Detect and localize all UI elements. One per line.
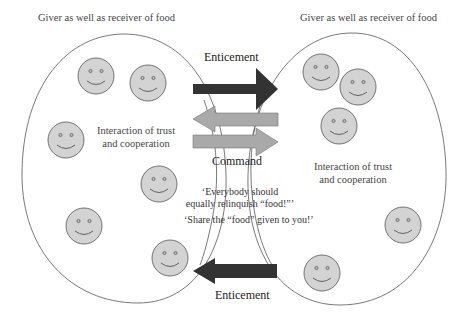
quote-block: ‘Everybody should equally relinquish “fo… [180, 186, 300, 210]
command-arrow-left [193, 106, 278, 132]
left-smiley-face-icon [130, 65, 166, 101]
right-interaction-line1: Interaction of trust [313, 161, 393, 174]
bottom-enticement-label: Enticement [215, 288, 270, 302]
quote-line1: ‘Everybody should [180, 186, 300, 198]
left-smiley-face-icon [152, 240, 188, 276]
left-smiley-face-icon [66, 208, 102, 244]
right-interaction-label: Interaction of trust and cooperation [313, 161, 393, 186]
left-interaction-line1: Interaction of trust [96, 125, 176, 138]
left-group-header: Giver as well as receiver of food [38, 12, 175, 25]
left-interaction-line2: and cooperation [96, 138, 176, 151]
enticement-arrow-right [193, 68, 278, 110]
left-smiley-face-icon [48, 122, 84, 158]
quote-line3: ‘Share the “food” given to you!’ [184, 214, 314, 226]
quote-line2: equally relinquish “food!”’ [180, 198, 300, 210]
enticement-arrow-left [193, 258, 277, 284]
right-smiley-face-icon [304, 255, 340, 291]
command-label: Command [212, 154, 262, 168]
command-arrow-right [193, 128, 278, 156]
right-smiley-face-icon [385, 207, 421, 243]
left-group-boundary [22, 34, 226, 303]
top-enticement-label: Enticement [204, 50, 259, 64]
right-smiley-face-icon [303, 54, 339, 90]
right-smiley-face-icon [340, 69, 376, 105]
right-smiley-face-icon [321, 108, 357, 144]
right-interaction-line2: and cooperation [313, 174, 393, 187]
left-smiley-face-icon [141, 166, 177, 202]
left-interaction-label: Interaction of trust and cooperation [96, 125, 176, 150]
left-smiley-face-icon [78, 58, 114, 94]
right-group-header: Giver as well as receiver of food [300, 12, 437, 25]
